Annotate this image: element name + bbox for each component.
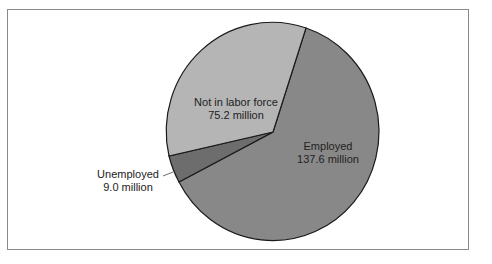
label-unemployed: Unemployed 9.0 million xyxy=(92,168,164,194)
label-unemployed-value: 9.0 million xyxy=(92,181,164,194)
label-not-in-labor-force: Not in labor force 75.2 million xyxy=(176,96,296,122)
label-employed: Employed 137.6 million xyxy=(280,140,376,166)
label-employed-name: Employed xyxy=(280,140,376,153)
label-employed-value: 137.6 million xyxy=(280,153,376,166)
label-not-in-labor-force-name: Not in labor force xyxy=(176,96,296,109)
unemployed-leader-line xyxy=(163,172,173,176)
pie-chart xyxy=(0,0,492,264)
label-not-in-labor-force-value: 75.2 million xyxy=(176,109,296,122)
label-unemployed-name: Unemployed xyxy=(92,168,164,181)
